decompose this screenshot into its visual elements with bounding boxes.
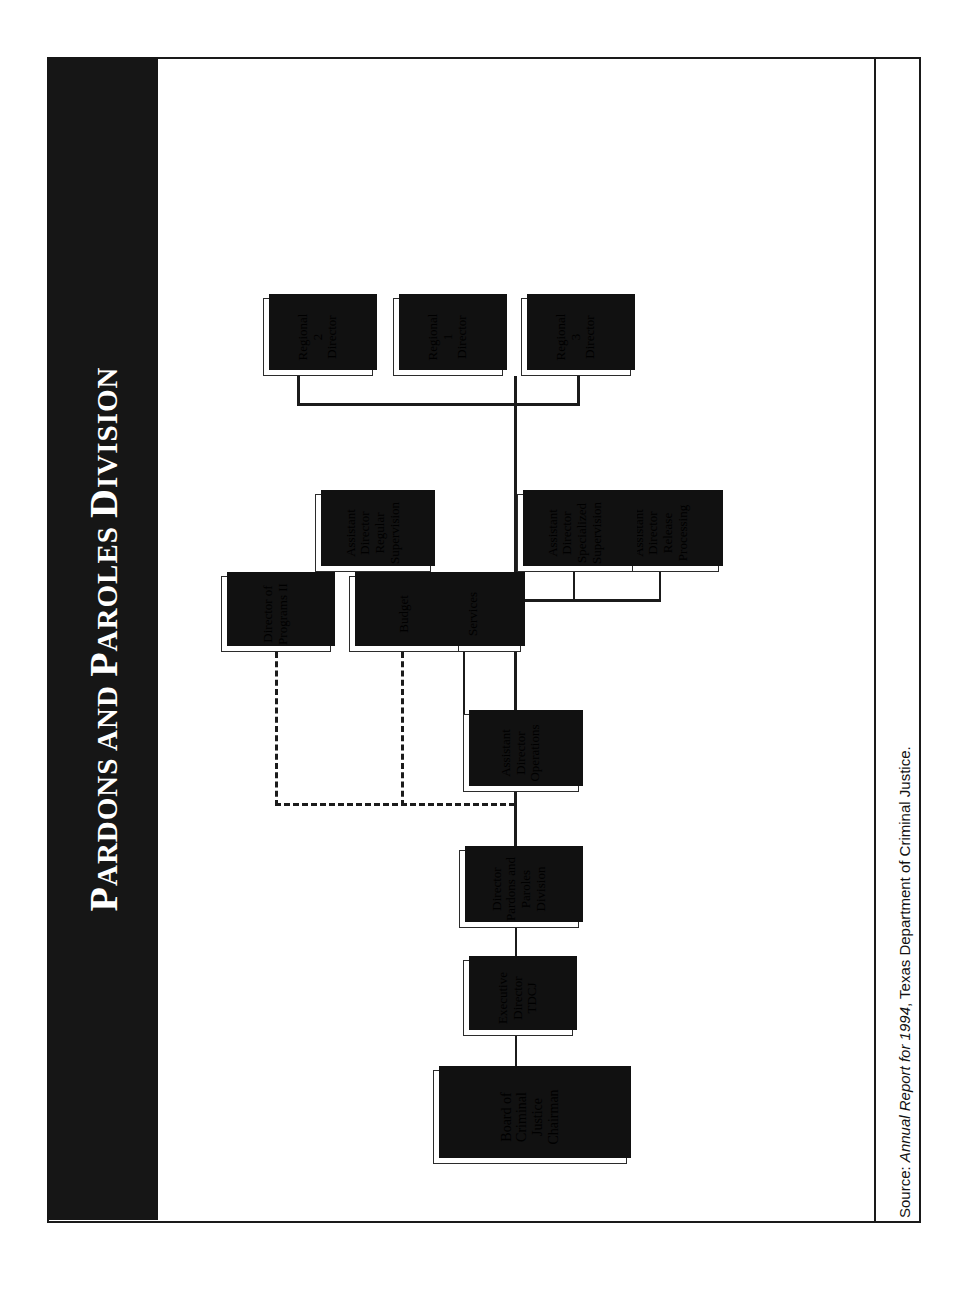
title-cap-p1: P — [80, 886, 125, 911]
edge-dashed-to-programsii — [275, 652, 278, 806]
edge-to-reg3 — [577, 376, 580, 406]
node-label: Director Pardons and Paroles Division — [490, 851, 548, 927]
source-caption: Source: Annual Report for 1994, Texas De… — [896, 658, 913, 1218]
title-sc-1: ARDONS AND — [90, 676, 122, 885]
node-regional-2-director[interactable]: Regional 2 Director — [263, 298, 373, 376]
org-chart: Board of Criminal Justice Chairman Execu… — [163, 70, 869, 1210]
edge-to-reg2 — [297, 376, 300, 406]
node-budget[interactable]: Budget — [349, 576, 459, 652]
node-regional-1-director[interactable]: Regional 1 Director — [393, 298, 503, 376]
node-label: Board of Criminal Justice Chairman — [499, 1071, 562, 1163]
node-executive-director-tdcj[interactable]: Executive Director TDCJ — [463, 960, 573, 1036]
title-sc-2: AROLES — [90, 517, 122, 651]
edge-to-reg1 — [514, 376, 517, 406]
node-label: Assistant Director Operations — [499, 721, 543, 784]
edge-dashed-to-budget — [401, 652, 404, 806]
page-root: PARDONS AND PAROLES DIVISION Source: Ann… — [0, 0, 963, 1295]
chart-rotation-wrapper: Board of Criminal Justice Chairman Execu… — [163, 70, 869, 1210]
node-board-of-criminal-justice[interactable]: Board of Criminal Justice Chairman — [433, 1070, 627, 1164]
node-label: Budget — [397, 592, 412, 636]
node-label: Regional 2 Director — [296, 311, 340, 364]
node-assistant-director-specialized-supervision[interactable]: Assistant Director Specialized Supervisi… — [517, 494, 633, 572]
edge-spine-to-regional — [514, 404, 517, 450]
node-director-of-programs-ii[interactable]: Director of Programs II — [221, 576, 331, 652]
edge-to-adspec — [573, 572, 575, 602]
node-assistant-director-regular-supervision[interactable]: Assistant Director Regular Supervision — [315, 494, 431, 572]
title-sc-3: IVISION — [90, 366, 122, 487]
node-label: Regional 1 Director — [426, 311, 470, 364]
edge-dashed-riser — [275, 803, 515, 806]
page-title: PARDONS AND PAROLES DIVISION — [79, 366, 126, 911]
node-label: Director of Programs II — [261, 580, 290, 648]
node-label: Assistant Director Specialized Supervisi… — [546, 499, 604, 567]
edge-to-adrelease — [659, 572, 661, 602]
node-label: Assistant Director Regular Supervision — [344, 499, 402, 567]
title-cap-d: D — [80, 487, 125, 517]
node-regional-3-director[interactable]: Regional 3 Director — [521, 298, 631, 376]
title-band: PARDONS AND PAROLES DIVISION — [47, 57, 158, 1220]
source-prefix: Source: — [896, 1162, 913, 1218]
edge-board-execdir — [515, 1036, 517, 1070]
node-label: Assistant Director Release Processing — [632, 502, 690, 564]
source-suffix: , Texas Department of Criminal Justice. — [896, 746, 913, 1007]
edge-regional-distributor — [297, 403, 579, 406]
node-director-pardons-paroles[interactable]: Director Pardons and Paroles Division — [459, 850, 579, 928]
node-assistant-director-operations[interactable]: Assistant Director Operations — [463, 714, 579, 792]
title-cap-p2: P — [80, 651, 125, 676]
node-label: Executive Director TDCJ — [496, 969, 540, 1027]
source-report-title: Annual Report for 1994 — [896, 1007, 913, 1162]
node-label: Regional 3 Director — [554, 311, 598, 364]
